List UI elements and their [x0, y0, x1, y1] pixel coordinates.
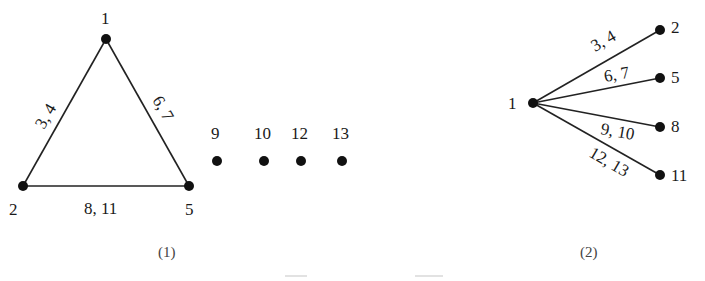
node-12-label: 12 — [291, 124, 308, 143]
edge-1-8 — [533, 103, 660, 127]
node-13 — [337, 156, 347, 166]
node-2 — [655, 25, 665, 35]
figure-2-caption: (2) — [580, 244, 598, 261]
node-9-label: 9 — [211, 124, 220, 143]
center-node-1 — [528, 98, 538, 108]
edge-1-8-label: 9, 10 — [599, 119, 636, 144]
node-11 — [655, 170, 665, 180]
node-1-label: 1 — [101, 9, 110, 28]
node-2-label: 2 — [9, 200, 18, 219]
node-10 — [259, 156, 269, 166]
figure-2: 1 2 5 8 11 3, 4 6, 7 9, 10 12, 13 (2) — [508, 18, 687, 261]
diagram-canvas: 1 2 5 3, 4 6, 7 8, 11 9 10 12 13 (1) 1 2… — [0, 0, 705, 281]
edge-1-2-label: 3, 4 — [588, 26, 620, 55]
node-8-label: 8 — [671, 117, 680, 136]
edge-1-2 — [23, 39, 106, 186]
node-12 — [296, 156, 306, 166]
node-5-label: 5 — [185, 200, 194, 219]
node-13-label: 13 — [332, 124, 349, 143]
edge-1-5-label: 6, 7 — [602, 63, 631, 86]
edge-1-5-label: 6, 7 — [149, 93, 178, 125]
node-1 — [101, 34, 111, 44]
cropped-caption-fragment — [265, 272, 445, 281]
node-5 — [184, 181, 194, 191]
edge-2-5-label: 8, 11 — [84, 199, 117, 218]
edge-1-11-label: 12, 13 — [586, 143, 632, 181]
center-node-label: 1 — [508, 94, 517, 113]
edge-1-5 — [533, 78, 660, 103]
node-2-label: 2 — [671, 18, 680, 37]
node-11-label: 11 — [671, 166, 687, 185]
node-9 — [212, 156, 222, 166]
figure-1-caption: (1) — [158, 244, 176, 261]
node-2 — [18, 181, 28, 191]
figure-1: 1 2 5 3, 4 6, 7 8, 11 9 10 12 13 (1) — [9, 9, 349, 261]
node-5-label: 5 — [671, 68, 680, 87]
node-10-label: 10 — [254, 124, 271, 143]
node-5 — [655, 73, 665, 83]
node-8 — [655, 122, 665, 132]
